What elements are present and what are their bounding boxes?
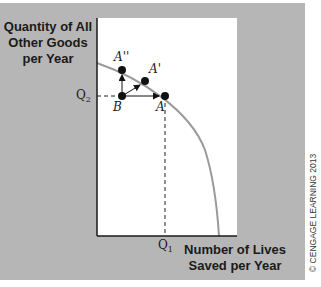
x-axis-label-line-1: Number of Lives: [180, 242, 290, 258]
point-a-double-prime: [118, 66, 126, 74]
point-a-prime: [141, 77, 149, 85]
x-axis-label: Number of Lives Saved per Year: [180, 242, 290, 274]
tick-label-q1: Q1: [158, 238, 173, 254]
copyright-notice: © CENGAGE LEARNING 2013: [308, 154, 318, 272]
point-a: [161, 92, 169, 100]
tick-label-q2: Q2: [76, 88, 91, 104]
label-a-prime: A': [149, 62, 161, 76]
point-b: [118, 92, 126, 100]
label-a: A: [156, 100, 165, 114]
label-b: B: [113, 100, 122, 114]
ppf-curve: [97, 63, 219, 236]
x-axis-label-line-2: Saved per Year: [180, 258, 290, 274]
label-a-double-prime: A'': [114, 50, 129, 64]
